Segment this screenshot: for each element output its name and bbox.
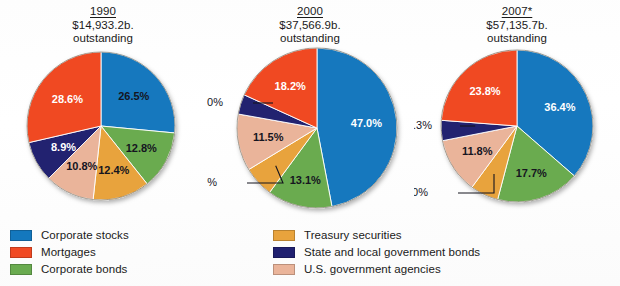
legend-item-state-local-bonds: State and local government bonds [273, 244, 480, 260]
legend-item-treasury-securities: Treasury securities [273, 227, 480, 243]
panel-year-2000: 2000 [297, 5, 323, 19]
pie-slice-label: 6.0% [414, 186, 428, 198]
panel-header-2007: 2007* $57,135.7b. outstanding [414, 3, 620, 46]
legend-label-mortgages: Mortgages [41, 246, 96, 259]
pie-slice-label: 6.2% [207, 176, 217, 188]
pie-slice-label: 17.7% [516, 167, 547, 179]
legend-label-corporate-stocks: Corporate stocks [41, 229, 129, 242]
legend-swatch-corporate-bonds [10, 264, 32, 275]
legend-item-corporate-stocks: Corporate stocks [10, 227, 129, 243]
legend-swatch-corporate-stocks [10, 230, 32, 241]
panel-year-1990: 1990 [90, 5, 116, 19]
pie-chart-2000: 47.0%13.1%6.2%11.5%4.0%18.2% [207, 44, 413, 222]
pie-svg: 26.5%12.8%12.4%10.8%8.9%28.6% [0, 44, 206, 222]
chart-legend: Corporate stocks Mortgages Corporate bon… [0, 227, 620, 286]
pie-slice-label: 4.3% [414, 119, 432, 131]
legend-item-corporate-bonds: Corporate bonds [10, 261, 129, 277]
legend-label-corporate-bonds: Corporate bonds [41, 263, 127, 276]
legend-label-treasury-securities: Treasury securities [304, 229, 402, 242]
pie-slice-label: 26.5% [118, 90, 149, 102]
panel-year-2007: 2007* [502, 5, 533, 19]
pie-panel-1990: 1990 $14,933.2b. outstanding 26.5%12.8%1… [0, 0, 206, 222]
panel-amount-1990: $14,933.2b. [0, 19, 206, 33]
legend-item-us-government-agencies: U.S. government agencies [273, 261, 480, 277]
pie-slice-label: 11.5% [253, 131, 284, 143]
pie-slice-label: 12.8% [126, 142, 157, 154]
chart-page: 1990 $14,933.2b. outstanding 26.5%12.8%1… [0, 0, 620, 286]
pie-slice-label: 23.8% [469, 85, 500, 97]
pie-slice-label: 36.4% [544, 101, 575, 113]
pie-slice-label: 8.9% [51, 141, 76, 153]
panel-amount-2000: $37,566.9b. [207, 19, 413, 33]
pie-panel-2000: 2000 $37,566.9b. outstanding 47.0%13.1%6… [207, 0, 413, 222]
legend-column-left: Corporate stocks Mortgages Corporate bon… [10, 227, 129, 278]
panel-header-1990: 1990 $14,933.2b. outstanding [0, 3, 206, 46]
legend-swatch-treasury-securities [273, 230, 295, 241]
pie-slice-label: 12.4% [98, 164, 129, 176]
pie-slice-label: 4.0% [207, 96, 223, 108]
panel-header-2000: 2000 $37,566.9b. outstanding [207, 3, 413, 46]
legend-label-us-government-agencies: U.S. government agencies [304, 263, 441, 276]
legend-swatch-state-local-bonds [273, 247, 295, 258]
pie-slice-label: 13.1% [290, 174, 321, 186]
pie-slice-label: 47.0% [351, 117, 382, 129]
pie-chart-1990: 26.5%12.8%12.4%10.8%8.9%28.6% [0, 44, 206, 222]
legend-column-right: Treasury securities State and local gove… [273, 227, 480, 278]
legend-label-state-local-bonds: State and local government bonds [304, 246, 480, 259]
panel-amount-2007: $57,135.7b. [414, 19, 620, 33]
legend-swatch-us-government-agencies [273, 264, 295, 275]
pie-slice-label: 18.2% [275, 80, 306, 92]
pie-panel-2007: 2007* $57,135.7b. outstanding 36.4%17.7%… [414, 0, 620, 222]
pie-svg: 36.4%17.7%6.0%11.8%4.3%23.8% [414, 44, 620, 222]
pie-svg: 47.0%13.1%6.2%11.5%4.0%18.2% [207, 44, 413, 222]
legend-item-mortgages: Mortgages [10, 244, 129, 260]
legend-swatch-mortgages [10, 247, 32, 258]
pie-slice-label: 28.6% [52, 93, 83, 105]
pie-chart-group: 1990 $14,933.2b. outstanding 26.5%12.8%1… [0, 0, 620, 222]
pie-slice-label: 11.8% [462, 145, 493, 157]
pie-slice-label: 10.8% [66, 160, 97, 172]
pie-chart-2007: 36.4%17.7%6.0%11.8%4.3%23.8% [414, 44, 620, 222]
